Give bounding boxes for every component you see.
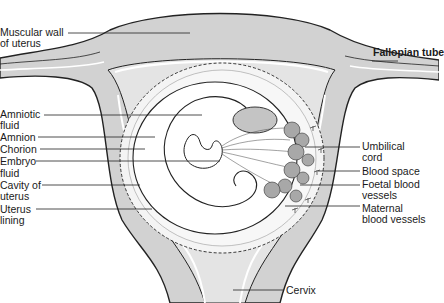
label-uterus-lining: Uterus lining <box>0 204 31 226</box>
label-fluid: fluid <box>0 168 19 179</box>
label-maternal-blood-vessels: Maternal blood vessels <box>362 203 426 225</box>
label-foetal-blood-vessels: Foetal blood vessels <box>362 179 420 201</box>
label-embryo: Embryo <box>0 156 36 167</box>
label-umbilical-cord: Umbilical cord <box>362 141 405 163</box>
label-fallopian-tube: Fallopian tube <box>373 47 444 58</box>
label-amnion: Amnion <box>0 132 36 143</box>
label-cavity-of-uterus: Cavity of uterus <box>0 180 41 202</box>
label-amniotic-fluid: Amniotic fluid <box>0 109 40 131</box>
label-muscular-wall: Muscular wall of uterus <box>0 27 64 49</box>
label-blood-space: Blood space <box>362 166 420 177</box>
label-chorion: Chorion <box>0 144 37 155</box>
label-cervix: Cervix <box>286 285 316 296</box>
